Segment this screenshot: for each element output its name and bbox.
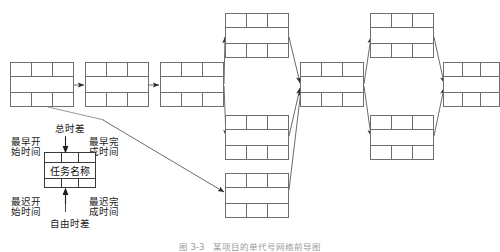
legend-cell-early-start [45,153,62,162]
node-cell-late-finish [128,93,148,106]
figure-caption: 图 3-3 某项目的单代号网络前导图 [0,240,500,252]
node-cell-late-start [226,44,247,57]
node-cell-free-float [247,146,268,159]
node-row-early [371,116,433,130]
node-row-late [226,204,288,217]
node-box[interactable] [370,13,434,58]
node-cell-early-finish [413,14,433,27]
legend-divider-bottom [65,190,66,212]
node-cell-free-float [247,44,268,57]
node-cell-free-float [392,146,413,159]
node-row-name [226,188,288,203]
node-cell-late-finish [203,93,223,106]
node-row-name [161,77,223,92]
node-row-name [301,77,363,92]
node-cell-total-float [392,14,413,27]
node-row-late [371,44,433,57]
node-cell-early-finish [203,63,223,76]
node-cell-total-float [247,14,268,27]
node-box[interactable] [225,13,289,58]
leader-line-n1-legend [48,107,104,120]
node-cell-early-start [371,14,392,27]
node-cell-free-float [182,93,203,106]
legend-late-finish-label-line2: 成时间 [84,207,124,218]
node-cell-early-finish [268,116,288,129]
node-cell-early-finish [268,14,288,27]
node-cell-early-start [11,63,32,76]
legend-free-float-label: 自由时差 [44,219,96,230]
node-box[interactable] [160,62,224,107]
node-row-name [86,77,148,92]
legend-early-start-label-line2: 始时间 [6,147,46,158]
node-cell-task-name [226,130,288,144]
node-cell-late-start [226,204,247,217]
node-cell-early-finish [413,116,433,129]
node-cell-early-start [371,116,392,129]
node-box[interactable] [300,62,364,107]
node-cell-total-float [322,63,343,76]
legend-total-float-label: 总时差 [44,124,96,135]
node-cell-early-finish [268,174,288,187]
node-cell-task-name [301,77,363,91]
legend-row-task-name: 任务名称 [45,163,95,179]
node-row-early [226,14,288,28]
node-cell-early-start [301,63,322,76]
node-box[interactable] [10,62,74,107]
node-cell-early-finish [53,63,73,76]
node-cell-task-name [444,77,499,91]
node-cell-free-float [322,93,343,106]
node-box[interactable] [225,115,289,160]
edge-n4-n7 [289,37,300,83]
node-row-late [226,146,288,159]
node-cell-free-float [463,93,482,106]
node-cell-late-finish [268,44,288,57]
node-cell-early-start [86,63,107,76]
node-cell-early-finish [481,63,499,76]
node-cell-task-name [371,130,433,144]
node-row-name [11,77,73,92]
node-cell-task-name [226,188,288,202]
legend-row-early [45,153,95,163]
node-cell-free-float [392,44,413,57]
node-cell-late-finish [413,146,433,159]
node-cell-task-name [371,28,433,42]
node-cell-total-float [247,116,268,129]
legend-cell-total-float [62,153,79,162]
node-cell-late-finish [413,44,433,57]
node-box[interactable] [85,62,149,107]
node-cell-total-float [463,63,482,76]
node-cell-late-start [371,146,392,159]
node-cell-late-start [11,93,32,106]
node-cell-early-start [161,63,182,76]
node-row-early [301,63,363,77]
node-cell-late-finish [268,204,288,217]
node-row-late [301,93,363,106]
node-cell-early-start [226,14,247,27]
legend-late-start-label-line2: 始时间 [6,207,46,218]
node-box[interactable] [370,115,434,160]
node-box[interactable] [443,62,500,107]
node-cell-late-start [371,44,392,57]
node-row-early [11,63,73,77]
node-cell-early-finish [128,63,148,76]
node-cell-total-float [247,174,268,187]
node-cell-late-finish [268,146,288,159]
node-cell-total-float [107,63,128,76]
node-cell-task-name [226,28,288,42]
node-row-early [86,63,148,77]
node-row-early [444,63,499,77]
legend-cell-late-start [45,179,62,188]
legend-cell-early-finish [79,153,95,162]
node-row-late [226,44,288,57]
node-row-late [371,146,433,159]
node-box[interactable] [225,173,289,218]
node-cell-total-float [392,116,413,129]
legend-cell-free-float [62,179,79,188]
node-row-early [161,63,223,77]
node-row-name [444,77,499,92]
node-cell-late-finish [343,93,363,106]
node-cell-free-float [107,93,128,106]
node-cell-early-finish [343,63,363,76]
node-cell-task-name [11,77,73,91]
